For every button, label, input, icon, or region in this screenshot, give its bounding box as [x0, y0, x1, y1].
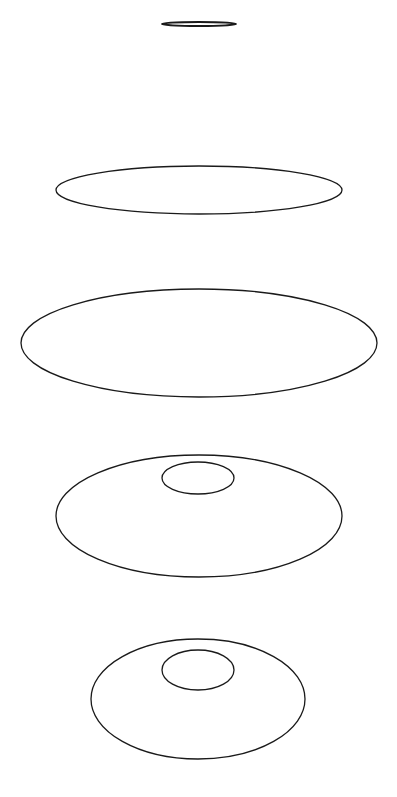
figure-4-ellipse-with-inner — [56, 455, 342, 577]
diagram-canvas — [0, 0, 397, 797]
ellipse-diagram — [0, 0, 397, 797]
ellipse-inner — [162, 650, 234, 690]
figure-3-large-ellipse — [21, 289, 377, 397]
ellipse-outer — [56, 166, 342, 214]
ellipse-inner — [162, 462, 234, 494]
figure-1-flat-ellipse — [162, 22, 236, 26]
ellipse-outer — [21, 289, 377, 397]
figure-5-ellipse-with-inner — [91, 639, 305, 759]
ellipse-outer — [91, 639, 305, 759]
ellipse-outer — [56, 455, 342, 577]
figure-2-wide-ellipse — [56, 166, 342, 214]
ellipse-outer — [162, 22, 236, 26]
